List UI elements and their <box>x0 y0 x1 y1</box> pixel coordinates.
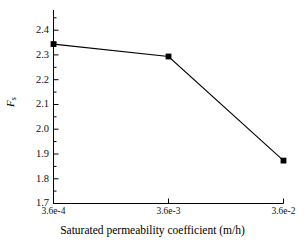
chart-figure: 2.4 2.3 2.2 2.1 2.0 1.9 1.8 1.7 3.6e-4 3… <box>0 0 305 247</box>
y-tick-label: 2.3 <box>23 50 49 61</box>
y-axis-label-subscript: s <box>9 97 18 100</box>
y-tick-label: 2.4 <box>23 25 49 36</box>
series-markers-fs <box>51 41 287 163</box>
series-line-fs <box>54 44 284 161</box>
data-point-marker <box>166 54 172 60</box>
x-major-ticks <box>54 199 284 204</box>
x-tick-label: 3.6e-4 <box>24 207 84 217</box>
data-point-marker <box>281 158 287 164</box>
y-axis-label: Fs <box>5 82 19 122</box>
y-tick-label: 2.0 <box>23 124 49 135</box>
y-axis-label-symbol: F <box>4 100 16 107</box>
x-tick-label: 3.6e-2 <box>254 207 306 217</box>
y-tick-label: 1.8 <box>23 174 49 185</box>
x-axis-label: Saturated permeability coefficient (m/h) <box>0 224 305 236</box>
y-tick-label: 1.9 <box>23 149 49 160</box>
x-tick-label: 3.6e-3 <box>139 207 199 217</box>
y-tick-label: 2.2 <box>23 75 49 86</box>
y-tick-label: 2.1 <box>23 99 49 110</box>
data-point-marker <box>51 41 57 47</box>
